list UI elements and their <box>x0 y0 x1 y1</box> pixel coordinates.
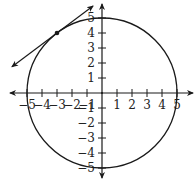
y-tick-label: −1 <box>77 101 95 115</box>
y-tick-label: 2 <box>87 56 95 70</box>
y-tick-label: 3 <box>87 41 95 55</box>
x-tick-label: 3 <box>143 98 151 112</box>
y-tick-label: 4 <box>87 26 95 40</box>
tangent-line <box>12 6 93 67</box>
coordinate-plane: −5−4−3−2−11234554321−1−2−3−4−5 <box>0 0 194 180</box>
x-tick-label: 2 <box>128 98 136 112</box>
tangent-point <box>55 31 60 36</box>
y-tick-label: −4 <box>77 146 95 160</box>
x-tick-label: 1 <box>113 98 121 112</box>
x-tick-label: 4 <box>158 98 166 112</box>
y-tick-label: 1 <box>87 71 95 85</box>
y-tick-label: −3 <box>77 131 95 145</box>
y-tick-label: −2 <box>77 116 95 130</box>
